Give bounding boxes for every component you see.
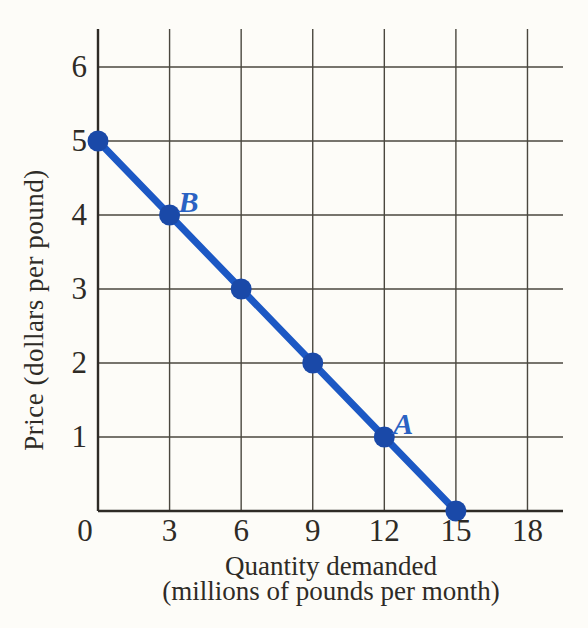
x-tick-label: 18 (512, 513, 543, 548)
x-tick-label: 9 (305, 513, 321, 548)
y-tick-label: 2 (72, 345, 88, 380)
y-tick-label: 5 (72, 123, 88, 158)
y-tick-label: 4 (72, 197, 88, 232)
point-label: B (178, 185, 199, 218)
y-tick-label: 3 (72, 271, 88, 306)
y-axis-title: Price (dollars per pound) (19, 169, 50, 451)
data-point-marker (302, 353, 323, 374)
x-tick-label: 6 (233, 513, 249, 548)
x-axis-title: Quantity demanded (millions of pounds pe… (162, 554, 499, 604)
x-tick-label: 0 (77, 513, 93, 548)
data-point-marker (88, 131, 109, 152)
y-tick-label: 6 (72, 49, 88, 84)
x-axis-title-line2: (millions of pounds per month) (162, 579, 499, 604)
data-point-marker (374, 427, 395, 448)
demand-curve-figure: Price (dollars per pound) BA123456036912… (0, 0, 588, 628)
demand-curve-chart: BA1234560369121518 (0, 0, 588, 628)
x-tick-label: 15 (440, 513, 471, 548)
data-point-marker (231, 279, 252, 300)
x-tick-label: 12 (369, 513, 400, 548)
y-tick-label: 1 (72, 419, 88, 454)
demand-curve-line (98, 141, 456, 511)
point-label: A (391, 407, 413, 440)
x-tick-label: 3 (162, 513, 178, 548)
data-point-marker (159, 205, 180, 226)
